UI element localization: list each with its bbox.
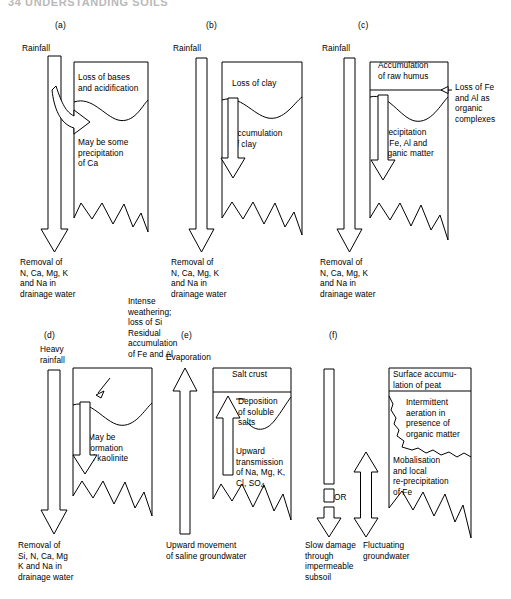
panel-f-gley-boundary (389, 396, 471, 457)
panel-e-deposition-boundary (247, 397, 291, 429)
panel-c-illuviation-arrow (371, 95, 395, 180)
panel-a-rainfall-arrow (41, 56, 68, 252)
figure-lineart (0, 0, 511, 599)
panel-b-clay-arrow (221, 98, 245, 178)
panel-a-soil-profile (74, 62, 148, 232)
panel-d-kaolinite-arrow (73, 402, 97, 474)
panel-e-capillary-arrow (216, 396, 240, 475)
panel-e-evaporation-arrow (173, 368, 197, 534)
panel-f-fluctuating-arrow (354, 452, 378, 537)
panel-c-rainfall-arrow (337, 58, 362, 252)
panel-c-side-note-arrowhead (441, 87, 448, 94)
panel-a-horizon-boundary (74, 100, 148, 121)
panel-d-top-note-arrowhead (96, 391, 104, 398)
figure-page: 34 UNDERSTANDING SOILS (a) (b) (c) (d) (… (0, 0, 511, 599)
panel-f-dash-segment (324, 489, 334, 502)
panel-f-soil-profile (389, 368, 471, 538)
panel-f-downward-arrow (317, 507, 341, 537)
panel-b-rainfall-arrow (189, 58, 214, 252)
panel-d-rainfall-arrow (41, 370, 67, 534)
panel-f-water-column (324, 369, 334, 484)
